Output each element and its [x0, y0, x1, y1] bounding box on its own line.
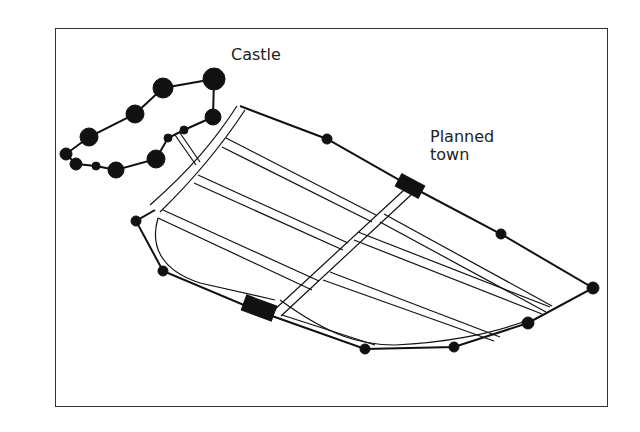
street-grid: [150, 106, 600, 345]
wall-tower: [322, 134, 332, 144]
town-wall: [131, 106, 599, 354]
castle-tower: [147, 150, 165, 168]
castle-tower: [203, 68, 225, 90]
wall-tower: [522, 317, 534, 329]
castle-tower: [108, 162, 124, 178]
wall-tower: [158, 266, 168, 276]
street-2: [198, 175, 348, 243]
castle-tower: [70, 158, 82, 170]
wall-tower: [360, 344, 370, 354]
wall-tower: [131, 216, 141, 226]
town-plan-diagram: [0, 0, 640, 432]
street-inner-curve: [155, 218, 275, 300]
planned-town-label: Planned town: [430, 128, 510, 164]
castle-label: Castle: [231, 46, 281, 64]
planned-town-label-line2: town: [430, 146, 510, 164]
castle-tower: [180, 126, 188, 134]
castle-tower: [80, 128, 98, 146]
castle-tower: [60, 148, 72, 160]
castle-tower: [126, 105, 144, 123]
wall-tower: [496, 229, 506, 239]
wall-tower: [587, 282, 599, 294]
castle-wall: [66, 79, 214, 170]
castle-tower: [164, 134, 172, 142]
street-1: [226, 138, 376, 215]
cross-street-1: [272, 190, 404, 312]
castle-tower: [205, 109, 221, 125]
street-3: [163, 210, 319, 281]
castle-tower: [92, 162, 100, 170]
wall-tower: [449, 342, 459, 352]
castle-tower: [153, 78, 173, 98]
planned-town-label-line1: Planned: [430, 128, 510, 146]
